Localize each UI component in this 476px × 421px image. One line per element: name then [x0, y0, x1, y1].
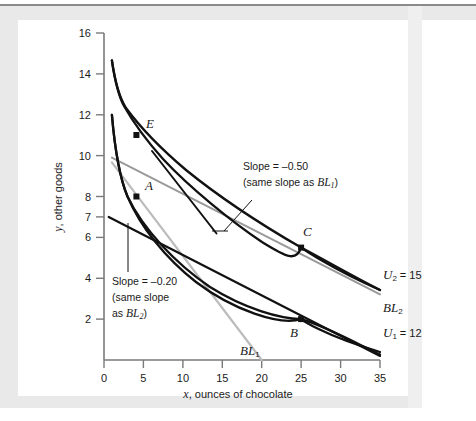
annotation-slope-050-line2-suffix: ): [335, 176, 339, 188]
marker-point-e[interactable]: [133, 132, 139, 138]
y-tick-label-2: 2: [85, 313, 91, 325]
x-axis-title: x, ounces of chocolate: [182, 387, 292, 401]
y-tick-label-8: 8: [85, 191, 91, 203]
y-axis-title: y, other goods: [51, 162, 65, 233]
x-tick-label-35: 35: [374, 372, 386, 384]
annotation-slope-020-line1: Slope = –0.20: [112, 275, 177, 287]
y-tick-label-16: 16: [79, 27, 91, 39]
curve-label-u1-subscript: 1: [392, 332, 397, 341]
figure-container: 16 14 12 10 8 7 6 4 2 0 5 10 15 20 25: [0, 0, 476, 421]
curve-label-bl1-subscript: 1: [255, 350, 260, 359]
point-label-e: E: [145, 116, 154, 131]
curve-label-bl1: BL1: [240, 343, 260, 359]
point-label-a: A: [144, 178, 153, 193]
marker-point-a[interactable]: [133, 194, 139, 200]
marker-point-b[interactable]: [298, 316, 304, 322]
indifference-curve-chart: 16 14 12 10 8 7 6 4 2 0 5 10 15 20 25: [0, 0, 476, 421]
y-tick-label-10: 10: [79, 150, 91, 162]
x-tick-label-5: 5: [140, 372, 146, 384]
x-tick-label-25: 25: [295, 372, 307, 384]
annotation-slope-020-line3: as BL2): [112, 307, 147, 321]
point-label-c: C: [303, 224, 312, 239]
annotation-slope-020-line3-suffix: ): [143, 307, 147, 319]
tangent-line: [152, 151, 217, 234]
point-label-b: B: [290, 325, 298, 340]
curve-label-u2-subscript: 2: [392, 274, 397, 283]
x-tick-label-20: 20: [256, 372, 268, 384]
curve-label-bl2-symbol: BL: [383, 300, 398, 315]
x-tick-label-30: 30: [334, 372, 346, 384]
y-tick-label-7: 7: [85, 211, 91, 223]
x-tick-label-0: 0: [101, 372, 107, 384]
curve-label-u1-value: = 12: [400, 327, 422, 339]
annotation-slope-020: Slope = –0.20 (same slope as BL2): [112, 223, 177, 321]
curve-label-u2-value: = 15: [400, 269, 422, 281]
y-tick-label-6: 6: [85, 231, 91, 243]
curve-label-bl2: BL2: [383, 300, 403, 316]
bl1-line: [112, 162, 262, 360]
y-axis-ticks: 16 14 12 10 8 7 6 4 2: [79, 27, 104, 325]
x-tick-label-15: 15: [216, 372, 228, 384]
x-tick-label-10: 10: [177, 372, 189, 384]
budget-line-bl1: [112, 162, 262, 360]
annotation-slope-050-line2-symbol: BL: [317, 176, 330, 188]
y-tick-label-14: 14: [79, 68, 91, 80]
annotation-slope-050-line1: Slope = –0.50: [243, 160, 308, 172]
curve-label-bl1-symbol: BL: [240, 343, 255, 358]
curve-label-bl2-subscript: 2: [398, 307, 403, 316]
tangent-segment-slope-050: [152, 151, 217, 234]
marker-point-c[interactable]: [298, 245, 304, 251]
x-axis-ticks: 0 5 10 15 20 25 30 35: [101, 360, 386, 384]
annotation-slope-020-line3-symbol: BL: [126, 307, 139, 319]
y-tick-label-4: 4: [85, 272, 91, 284]
y-tick-label-12: 12: [79, 109, 91, 121]
annotation-slope-050-line2: (same slope as BL1): [243, 176, 338, 190]
annotation-slope-020-line2: (same slope: [112, 291, 169, 303]
curve-label-u2: U2= 15: [383, 267, 422, 283]
annotation-slope-050-line2-prefix: (same slope as: [243, 176, 317, 188]
curve-label-u1: U1= 12: [383, 325, 422, 341]
annotation-slope-020-line3-prefix: as: [112, 307, 126, 319]
